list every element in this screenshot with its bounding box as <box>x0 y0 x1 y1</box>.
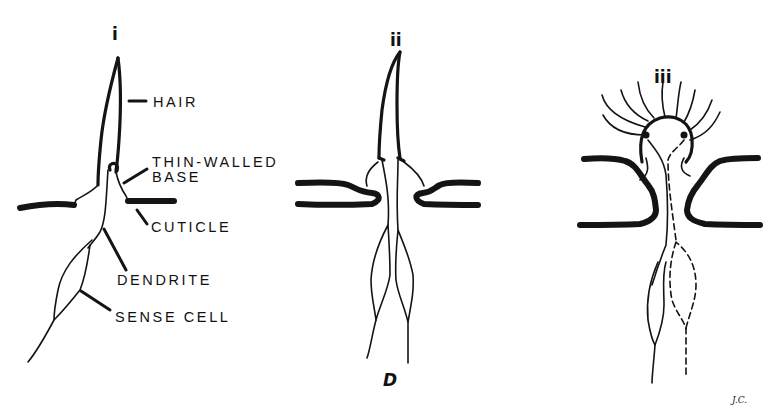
panel-iii: iii J.C. <box>580 67 760 405</box>
label-dendrite: DENDRITE <box>117 272 212 288</box>
sense-cell-left <box>371 225 390 320</box>
label-thin-walled: THIN-WALLED <box>152 154 278 170</box>
cuticle-left <box>20 204 74 208</box>
thin-walled-leader <box>124 169 147 183</box>
hair-socket-right <box>398 158 404 161</box>
label-sense-cell: SENSE CELL <box>115 309 230 325</box>
cuticle-left <box>580 158 656 225</box>
sense-cell-solid <box>647 262 666 345</box>
figure-letter: D <box>383 370 397 390</box>
cuticle-right <box>687 158 760 225</box>
panel-ii: ii D <box>298 30 478 390</box>
artist-signature: J.C. <box>730 395 747 405</box>
label-hair: HAIR <box>153 94 198 110</box>
sense-cell <box>54 240 92 320</box>
hair-socket <box>109 163 117 172</box>
sensory-hair-figure: i HAIR THIN-WALLED BASE CUTICLE DENDRITE… <box>0 0 775 415</box>
sense-cell-dashed <box>670 242 696 328</box>
sense-cell-right <box>396 230 414 322</box>
panel-ii-label: ii <box>390 30 402 50</box>
thin-walled-base-right <box>404 162 424 186</box>
axon-solid <box>652 345 655 383</box>
thin-walled-base-right <box>116 172 128 200</box>
label-cuticle: CUTICLE <box>151 219 231 235</box>
dome-attachment-right <box>681 132 688 139</box>
cuticle-right <box>416 182 478 205</box>
hair-shaft-right <box>397 52 400 158</box>
dendrite-dashed <box>668 140 684 240</box>
dendrite-left <box>382 160 389 225</box>
label-base: BASE <box>152 169 201 185</box>
thin-walled-base <box>366 162 378 186</box>
hair-shaft-right <box>116 58 120 170</box>
thin-walled-base <box>74 185 98 205</box>
sense-cell-leader <box>81 291 110 310</box>
dendrite-leader <box>104 229 126 270</box>
panel-i-label: i <box>112 24 118 44</box>
axon <box>28 320 54 362</box>
panel-i: i HAIR THIN-WALLED BASE CUTICLE DENDRITE… <box>20 24 278 362</box>
axon-left <box>367 320 376 358</box>
dendrite-right <box>397 160 398 230</box>
cuticle-leader <box>137 210 147 224</box>
radiating-hairs <box>602 82 720 140</box>
